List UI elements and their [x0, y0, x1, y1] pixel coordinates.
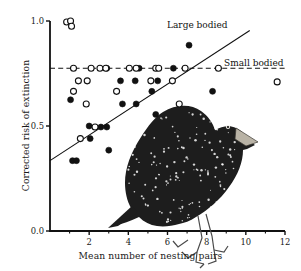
starling-speckle [212, 218, 214, 220]
data-point-small-bodied [84, 78, 90, 84]
starling-speckle [224, 209, 225, 210]
starling-speckle [210, 190, 211, 191]
starling-speckle [215, 203, 217, 205]
starling-speckle [211, 149, 213, 151]
starling-speckle [165, 116, 167, 118]
starling-speckle [225, 172, 226, 173]
starling-speckle [179, 208, 180, 209]
starling-speckle [209, 121, 210, 122]
data-point-small-bodied [77, 136, 83, 142]
starling-speckle [178, 140, 180, 142]
data-point-small-bodied [71, 88, 77, 94]
starling-speckle [187, 217, 189, 219]
starling-speckle [234, 180, 236, 182]
small-bodied-annotation: Small bodied [224, 58, 284, 68]
data-point-small-bodied [83, 101, 89, 107]
starling-speckle [216, 156, 218, 158]
starling-speckle [170, 175, 171, 176]
starling-speckle [128, 183, 130, 185]
starling-speckle [166, 184, 167, 185]
starling-leg [200, 264, 204, 268]
large-bodied-annotation: Large bodied [167, 20, 228, 30]
data-point-large-bodied [87, 136, 93, 142]
starling-speckle [156, 198, 158, 200]
data-point-large-bodied [155, 78, 161, 84]
starling-speckle [200, 114, 202, 116]
x-tick-label: 12 [270, 237, 300, 247]
starling-speckle [207, 170, 209, 172]
starling-speckle [172, 126, 174, 128]
starling-speckle [138, 162, 139, 163]
data-point-large-bodied [68, 97, 74, 103]
starling-pupil [227, 126, 229, 128]
starling-speckle [144, 184, 146, 186]
starling-speckle [174, 132, 175, 133]
starling-speckle [188, 214, 190, 216]
starling-speckle [167, 218, 169, 220]
starling-speckle [159, 211, 161, 213]
x-tick-label: 2 [74, 237, 104, 247]
starling-speckle [181, 206, 183, 208]
starling-speckle [129, 166, 131, 168]
starling-speckle [133, 174, 135, 176]
data-point-small-bodied [169, 78, 175, 84]
starling-speckle [196, 133, 198, 135]
data-point-small-bodied [97, 65, 103, 71]
starling-speckle [188, 204, 189, 205]
starling-speckle [152, 190, 154, 192]
starling-speckle [127, 169, 129, 171]
starling-speckle [202, 147, 204, 149]
starling-speckle [228, 132, 229, 133]
starling-speckle [233, 168, 235, 170]
data-point-large-bodied [132, 78, 138, 84]
data-point-small-bodied [103, 65, 109, 71]
starling-speckle [225, 169, 226, 170]
starling-speckle [177, 135, 179, 137]
starling-speckle [232, 189, 233, 190]
starling-speckle [204, 133, 206, 135]
starling-speckle [153, 156, 155, 158]
x-tick-label: 4 [113, 237, 143, 247]
starling-speckle [187, 158, 189, 160]
data-point-small-bodied [88, 65, 94, 71]
starling-speckle [173, 161, 175, 163]
starling-speckle [214, 176, 216, 178]
starling-speckle [196, 168, 198, 170]
starling-body [114, 106, 255, 227]
starling-speckle [156, 164, 157, 165]
starling-speckle [168, 147, 170, 149]
starling-speckle [183, 160, 185, 162]
starling-speckle [204, 140, 205, 141]
starling-speckle [166, 221, 168, 223]
starling-speckle [134, 146, 136, 148]
starling-speckle [181, 200, 182, 201]
starling-speckle [222, 164, 224, 166]
starling-speckle [155, 177, 157, 179]
starling-speckle [232, 161, 234, 163]
starling-speckle [192, 202, 194, 204]
starling-speckle [150, 152, 152, 154]
starling-speckle [200, 180, 202, 182]
data-point-large-bodied [119, 101, 125, 107]
starling-speckle [180, 208, 181, 209]
data-point-small-bodied [71, 65, 77, 71]
data-point-small-bodied [92, 124, 98, 130]
data-point-large-bodied [153, 111, 159, 117]
starling-speckle [145, 203, 146, 204]
data-point-small-bodied [182, 65, 188, 71]
starling-speckle [213, 153, 215, 155]
starling-speckle [229, 148, 231, 150]
starling-speckle [202, 118, 205, 121]
starling-speckle [199, 206, 201, 208]
starling-speckle [163, 151, 165, 153]
x-tick-label: 10 [231, 237, 261, 247]
starling-speckle [193, 169, 194, 170]
starling-speckle [170, 220, 171, 221]
starling-speckle [143, 134, 145, 136]
starling-speckle [134, 191, 136, 193]
starling-speckle [182, 220, 183, 221]
data-point-large-bodied [210, 88, 216, 94]
starling-speckle [207, 199, 209, 201]
starling-speckle [167, 182, 169, 184]
starling-speckle [196, 127, 197, 128]
